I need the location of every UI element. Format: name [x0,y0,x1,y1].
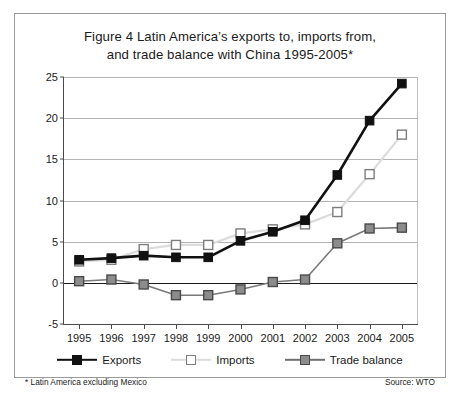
legend-item-exports: Exports [57,354,141,366]
legend-swatch-exports [57,354,97,366]
x-tick-label-2001: 2001 [261,332,285,344]
figure-frame: Figure 4 Latin America’s exports to, imp… [14,13,446,378]
data-point [268,278,277,287]
data-point [301,275,310,284]
data-point [397,130,406,139]
data-point [333,239,342,248]
legend-item-trade-balance: Trade balance [285,354,403,366]
figure-source: Source: WTO [385,377,435,387]
x-tick-label-1998: 1998 [164,332,188,344]
x-tick-mark-1996 [111,324,112,329]
x-tick-mark-2003 [337,324,338,329]
data-point [171,291,180,300]
data-point [171,240,180,249]
data-point [139,280,148,289]
series-exports [75,79,406,264]
data-point [204,291,213,300]
chart-legend: Exports Imports Trade balance [15,354,445,366]
x-tick-mark-1995 [79,324,80,329]
legend-item-imports: Imports [171,354,254,366]
data-point [333,208,342,217]
data-point [236,237,245,246]
x-tick-mark-1997 [144,324,145,329]
chart-plot: -50510152025 199519961997199819992000200… [15,14,447,379]
data-point [398,79,407,88]
legend-label-imports: Imports [216,354,254,366]
x-tick-label-1999: 1999 [196,332,220,344]
legend-swatch-imports [171,354,211,366]
x-tick-label-2000: 2000 [228,332,252,344]
data-point [365,224,374,233]
data-point [268,227,277,236]
data-point [204,253,213,262]
x-tick-label-1995: 1995 [67,332,91,344]
data-point [107,254,116,263]
data-point [236,285,245,294]
data-point [204,240,213,249]
data-point [365,116,374,125]
figure-footnote: * Latin America excluding Mexico [25,377,147,387]
legend-label-trade-balance: Trade balance [330,354,403,366]
data-point [301,216,310,225]
legend-swatch-trade-balance [285,354,325,366]
x-tick-label-1996: 1996 [99,332,123,344]
x-tick-label-2004: 2004 [357,332,381,344]
x-tick-label-2002: 2002 [293,332,317,344]
data-point [333,171,342,180]
data-point [75,277,84,286]
data-point [172,253,181,262]
data-point [75,255,84,264]
x-tick-mark-2000 [241,324,242,329]
x-tick-mark-2005 [402,324,403,329]
x-tick-label-2005: 2005 [390,332,414,344]
data-point [397,223,406,232]
data-point [107,275,116,284]
data-point [365,170,374,179]
x-tick-mark-1998 [176,324,177,329]
x-tick-mark-1999 [208,324,209,329]
legend-label-exports: Exports [102,354,141,366]
data-point [139,251,148,260]
x-tick-mark-2004 [370,324,371,329]
x-tick-mark-2002 [305,324,306,329]
x-tick-mark-2001 [273,324,274,329]
x-tick-label-2003: 2003 [325,332,349,344]
x-tick-label-1997: 1997 [131,332,155,344]
